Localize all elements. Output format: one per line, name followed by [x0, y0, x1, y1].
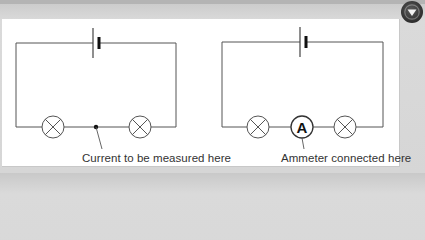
ammeter-icon: A	[291, 116, 313, 149]
ammeter-symbol: A	[297, 119, 308, 136]
left-lamp-1-icon	[42, 116, 64, 138]
right-circuit-label: Ammeter connected here	[281, 152, 411, 164]
chevron-down-icon	[401, 1, 423, 23]
left-circuit	[16, 43, 176, 127]
left-cell-icon	[93, 28, 101, 58]
right-lamp-1-icon	[247, 116, 269, 138]
right-circuit	[222, 42, 383, 127]
junction-point-icon	[94, 125, 102, 149]
right-lamp-2-icon	[334, 116, 356, 138]
right-cell-icon	[300, 27, 308, 57]
circuit-diagrams: A	[0, 0, 425, 173]
left-lamp-2-icon	[129, 116, 151, 138]
left-circuit-label: Current to be measured here	[82, 152, 231, 164]
dropdown-button[interactable]	[401, 1, 423, 23]
